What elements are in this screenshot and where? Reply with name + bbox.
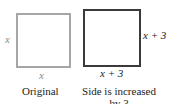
original-square (16, 13, 71, 68)
original-caption: Original (22, 85, 59, 97)
increased-right-label: x + 3 (143, 30, 166, 41)
increased-caption: Side is increased by 3 (79, 85, 159, 104)
increased-caption-line2: by 3 (79, 97, 159, 104)
original-left-label: x (5, 34, 10, 45)
increased-bottom-label: x + 3 (100, 68, 123, 79)
original-bottom-label: x (39, 70, 44, 81)
increased-caption-line1: Side is increased (79, 85, 159, 97)
increased-square (83, 9, 141, 67)
